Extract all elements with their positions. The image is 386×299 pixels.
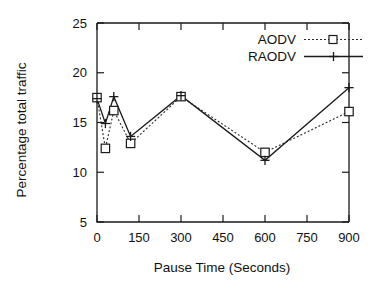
series-markers-aodv (93, 92, 353, 156)
x-axis-title: Pause Time (Seconds) (154, 260, 291, 275)
line-chart-canvas: 510152025 0150300450600750900 Percentage… (0, 0, 386, 299)
legend-swatch-raodv (304, 52, 363, 61)
y-tick-label: 25 (73, 16, 87, 31)
x-tick-label: 750 (296, 230, 318, 245)
y-axis-title: Percentage total traffic (14, 62, 29, 197)
data-point-aodv (261, 148, 269, 156)
legend-label-raodv: RAODV (248, 49, 296, 64)
x-tick-label: 450 (212, 230, 234, 245)
y-tick-label: 10 (73, 165, 87, 180)
data-point-aodv (101, 144, 109, 152)
x-tick-label: 300 (170, 230, 192, 245)
chart-legend: AODV RAODV (248, 32, 363, 64)
axis-tick-marks (97, 23, 349, 222)
data-point-aodv (110, 106, 118, 114)
y-tick-label: 5 (80, 215, 87, 230)
axis-frame (97, 23, 349, 222)
legend-label-aodv: AODV (258, 32, 296, 47)
x-tick-label: 0 (93, 230, 100, 245)
x-tick-label: 600 (254, 230, 276, 245)
chart-figure: 510152025 0150300450600750900 Percentage… (0, 0, 386, 299)
y-axis-tick-labels: 510152025 (73, 16, 87, 230)
data-point-aodv (345, 107, 353, 115)
x-axis-tick-labels: 0150300450600750900 (93, 230, 359, 245)
legend-swatch-aodv (304, 36, 363, 44)
data-point-raodv (109, 92, 118, 101)
y-tick-label: 20 (73, 65, 87, 80)
x-tick-label: 150 (128, 230, 150, 245)
x-tick-label: 900 (338, 230, 360, 245)
y-tick-label: 15 (73, 115, 87, 130)
